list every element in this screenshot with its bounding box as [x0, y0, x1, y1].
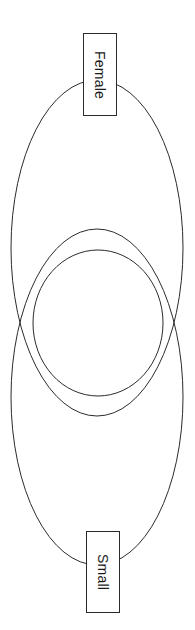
venn-diagram-canvas: Female Small: [0, 0, 195, 630]
set-label-text-female: Female: [93, 51, 107, 99]
set-label-box-female[interactable]: Female: [83, 33, 117, 116]
set-ellipse-small[interactable]: [11, 229, 183, 565]
set-label-text-small: Small: [96, 554, 110, 590]
set-label-box-small[interactable]: Small: [86, 531, 120, 613]
set-ellipse-middle[interactable]: [33, 250, 163, 396]
set-ellipse-female[interactable]: [11, 80, 183, 416]
